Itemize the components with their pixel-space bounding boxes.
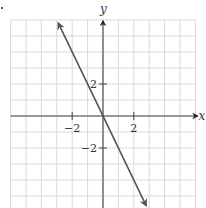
y-axis-label: y bbox=[99, 2, 107, 16]
y-tick-label: −2 bbox=[81, 142, 97, 155]
x-tick-label: −2 bbox=[64, 122, 80, 135]
series-line bbox=[58, 23, 146, 205]
coordinate-plane: −222−2 x y bbox=[0, 0, 205, 208]
y-tick-label: 2 bbox=[90, 78, 97, 91]
data-line bbox=[58, 23, 146, 205]
x-axis-label: x bbox=[199, 109, 206, 123]
x-tick-label: 2 bbox=[130, 122, 137, 135]
